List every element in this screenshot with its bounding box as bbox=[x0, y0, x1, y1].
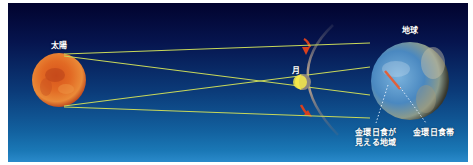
earth bbox=[371, 42, 449, 120]
diagram-scene bbox=[8, 3, 468, 162]
sun bbox=[32, 53, 86, 107]
ray-lines bbox=[64, 43, 370, 118]
orbit-arrow-icon bbox=[302, 47, 310, 55]
annular-band-label: 金環日食帯 bbox=[413, 128, 455, 138]
visible-region-line2: 見える地域 bbox=[355, 138, 397, 148]
moon-label: 月 bbox=[292, 66, 300, 76]
eclipse-diagram: 太陽 月 地球 金環日食が 見える地域 金環日食帯 bbox=[8, 3, 468, 162]
earth-label: 地球 bbox=[402, 26, 419, 36]
sun-label: 太陽 bbox=[51, 41, 68, 51]
visible-region-line1: 金環日食が bbox=[355, 128, 397, 138]
visible-region-label: 金環日食が 見える地域 bbox=[355, 128, 397, 148]
